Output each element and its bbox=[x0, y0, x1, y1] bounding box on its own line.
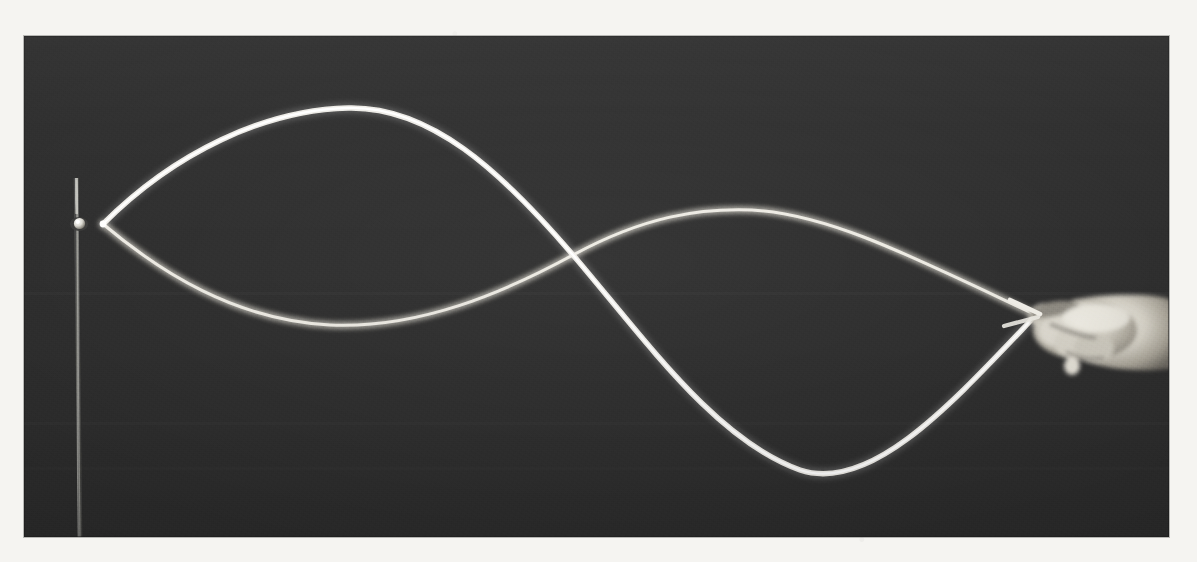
scanned-page: Black and white photograph of a rope fix… bbox=[0, 0, 1197, 562]
fixed-end-node bbox=[100, 221, 107, 228]
photo-canvas bbox=[24, 36, 1169, 537]
rope-clamp-knob bbox=[70, 217, 88, 231]
standing-wave-photograph bbox=[24, 36, 1169, 537]
